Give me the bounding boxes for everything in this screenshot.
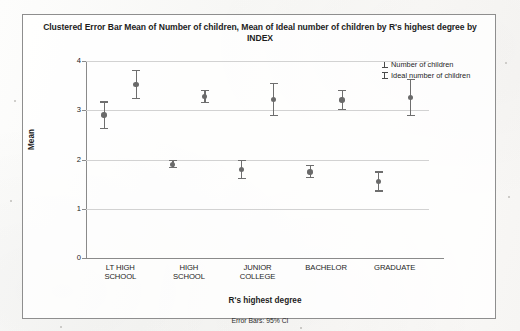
error-bar-cap-bottom: [270, 115, 278, 116]
error-bar-cap-bottom: [338, 109, 346, 110]
error-bar-cap-bottom: [132, 98, 140, 99]
error-bar-marker: [406, 79, 415, 116]
y-tick-mark: [82, 258, 86, 259]
error-bar-cap-bottom: [375, 190, 383, 191]
data-point-marker: [339, 97, 344, 102]
error-bar-cap-top: [100, 101, 108, 102]
x-axis-line: [86, 258, 444, 259]
y-tick-mark: [82, 160, 86, 161]
error-bar-cap-top: [407, 79, 415, 80]
plot-area: [86, 61, 429, 258]
data-point-marker: [408, 95, 413, 100]
y-tick-label: 4: [61, 56, 81, 65]
error-bar-marker: [168, 160, 177, 169]
y-axis-ticks: 01234: [57, 15, 81, 331]
error-bar-cap-top: [375, 171, 383, 172]
gridline: [86, 160, 429, 161]
scan-speckle: [505, 62, 507, 64]
error-bar-marker: [237, 160, 246, 179]
error-bar-cap-top: [270, 83, 278, 84]
y-tick-mark: [82, 61, 86, 62]
error-bar-cap-top: [201, 90, 209, 91]
x-tick-label: GRADUATE: [355, 263, 435, 272]
data-point-marker: [307, 169, 312, 174]
y-tick-label: 0: [61, 253, 81, 262]
gridline: [86, 209, 429, 210]
error-bar-cap-bottom: [100, 128, 108, 129]
y-tick-label: 2: [61, 155, 81, 164]
error-bar-cap-bottom: [169, 167, 177, 168]
chart-card: Clustered Error Bar Mean of Number of ch…: [22, 14, 496, 319]
y-axis-title: Mean: [27, 129, 36, 150]
error-bar-cap-top: [132, 70, 140, 71]
data-point-marker: [376, 179, 381, 184]
data-point-marker: [202, 94, 207, 99]
error-bar-marker: [100, 101, 109, 129]
scan-speckle: [300, 327, 302, 329]
y-tick-mark: [82, 110, 86, 111]
chart-footnote: Error Bars: 95% CI: [23, 317, 497, 324]
error-bar-marker: [338, 90, 347, 111]
chart-title: Clustered Error Bar Mean of Number of ch…: [41, 22, 479, 45]
error-bar-cap-top: [306, 165, 314, 166]
error-bar-marker: [200, 90, 209, 104]
scan-speckle: [508, 196, 510, 198]
error-bar-marker: [132, 70, 141, 100]
y-tick-label: 1: [61, 204, 81, 213]
data-point-marker: [101, 112, 106, 117]
y-tick-label: 3: [61, 105, 81, 114]
error-bar-cap-top: [238, 160, 246, 161]
scan-speckle: [10, 200, 12, 202]
x-axis-labels: LT HIGHSCHOOLHIGHSCHOOLJUNIORCOLLEGEBACH…: [86, 263, 444, 289]
x-axis-title: R's highest degree: [86, 296, 444, 305]
error-bar-cap-top: [338, 90, 346, 91]
data-point-marker: [271, 97, 276, 102]
gridline: [86, 61, 429, 62]
error-bar-marker: [306, 165, 315, 178]
data-point-marker: [239, 167, 244, 172]
y-tick-mark: [82, 209, 86, 210]
error-bar-cap-top: [169, 160, 177, 161]
error-bar-marker: [269, 83, 278, 116]
error-bar-cap-bottom: [238, 178, 246, 179]
gridline: [86, 110, 429, 111]
error-bar-cap-bottom: [407, 115, 415, 116]
error-bar-cap-bottom: [306, 177, 314, 178]
error-bar-cap-bottom: [201, 102, 209, 103]
scan-speckle: [14, 100, 16, 102]
error-bar-marker: [374, 171, 383, 191]
data-point-marker: [133, 82, 138, 87]
